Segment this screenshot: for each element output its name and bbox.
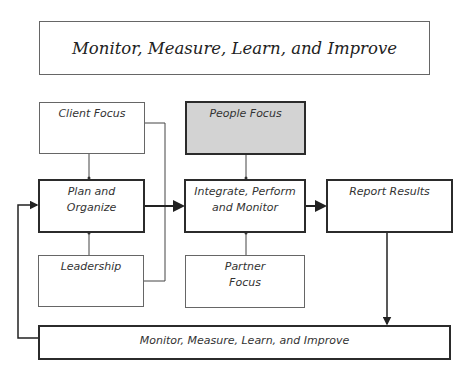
header-box: Monitor, Measure, Learn, and Improve [39, 21, 430, 75]
plan-organize-line1: Plan and [40, 184, 143, 200]
integrate-line2: and Monitor [186, 200, 304, 216]
leadership-label: Leadership [61, 260, 122, 273]
integrate-node: Integrate, Perform and Monitor [184, 179, 306, 233]
leadership-node: Leadership [38, 255, 144, 307]
monitor-loop-node: Monitor, Measure, Learn, and Improve [38, 325, 451, 360]
monitor-loop-label: Monitor, Measure, Learn, and Improve [140, 334, 350, 347]
people-focus-label: People Focus [209, 107, 281, 120]
partner-focus-line1: Partner [186, 259, 304, 275]
people-focus-node: People Focus [185, 101, 306, 155]
report-results-node: Report Results [326, 179, 453, 233]
partner-focus-line2: Focus [186, 275, 304, 291]
header-box-label: Monitor, Measure, Learn, and Improve [72, 39, 397, 58]
report-results-label: Report Results [349, 185, 430, 198]
plan-organize-line2: Organize [40, 200, 143, 216]
plan-organize-node: Plan and Organize [38, 179, 145, 233]
partner-focus-node: Partner Focus [185, 255, 305, 308]
client-focus-node: Client Focus [39, 102, 145, 154]
integrate-line1: Integrate, Perform [186, 184, 304, 200]
client-focus-label: Client Focus [58, 107, 125, 120]
